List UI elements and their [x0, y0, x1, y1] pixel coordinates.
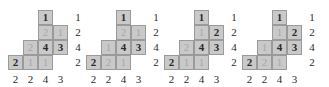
tableau-cell-r2-c2: 4: [116, 40, 131, 55]
column-label-3: 3: [209, 72, 224, 86]
tableau-cell-r1-c2: 2: [116, 25, 131, 40]
column-label-3: 3: [287, 72, 302, 86]
row-label-3: 2: [306, 55, 318, 70]
tableau-cell-r3-c1: 2: [101, 55, 116, 70]
column-label-0: 2: [242, 72, 257, 86]
tableau-cell-r2-c1: 1: [257, 40, 272, 55]
column-label-1: 2: [101, 72, 116, 86]
tableau-grid: 112143221: [242, 10, 302, 70]
diagram-2: 12114322112422243: [82, 4, 160, 84]
tableau-cell-r3-c1: 1: [23, 55, 38, 70]
tableau-cell-r0-c2: 1: [116, 10, 131, 25]
column-label-3: 3: [131, 72, 146, 86]
column-label-1: 2: [257, 72, 272, 86]
row-label-2: 4: [306, 40, 318, 55]
tableau-cell-r2-c3: 3: [287, 40, 302, 55]
tableau-cell-r2-c1: 2: [179, 40, 194, 55]
tableau-cell-r2-c1: 2: [23, 40, 38, 55]
tableau-cell-r0-c2: 1: [38, 10, 53, 25]
column-label-0: 2: [8, 72, 23, 86]
tableau-cell-r3-c2: 1: [272, 55, 287, 70]
tableau-cell-r3-c2: 1: [194, 55, 209, 70]
column-label-2: 4: [194, 72, 209, 86]
column-label-1: 2: [23, 72, 38, 86]
column-label-2: 4: [272, 72, 287, 86]
tableau-cell-r3-c0: 2: [86, 55, 101, 70]
tableau-cell-r1-c2: 1: [272, 25, 287, 40]
tableau-grid: 121243211: [8, 10, 68, 70]
tableau-cell-r3-c0: 2: [164, 55, 179, 70]
row-label-0: 1: [306, 10, 318, 25]
tableau-cell-r1-c2: 1: [194, 25, 209, 40]
tableau-cell-r3-c1: 2: [257, 55, 272, 70]
column-label-1: 2: [179, 72, 194, 86]
tableau-cell-r2-c2: 4: [38, 40, 53, 55]
tableau-grid: 121143221: [86, 10, 146, 70]
tableau-cell-r2-c1: 1: [101, 40, 116, 55]
column-label-2: 4: [116, 72, 131, 86]
tableau-grid: 112243211: [164, 10, 224, 70]
diagram-row: 1212432111242224312114322112422243112243…: [0, 0, 329, 84]
tableau-cell-r2-c2: 4: [272, 40, 287, 55]
tableau-cell-r3-c0: 2: [242, 55, 257, 70]
column-label-2: 4: [38, 72, 53, 86]
tableau-cell-r3-c0: 2: [8, 55, 23, 70]
tableau-cell-r3-c2: 1: [116, 55, 131, 70]
tableau-cell-r1-c3: 1: [131, 25, 146, 40]
tableau-cell-r2-c3: 3: [209, 40, 224, 55]
column-label-0: 2: [86, 72, 101, 86]
tableau-cell-r2-c2: 4: [194, 40, 209, 55]
tableau-cell-r1-c3: 2: [287, 25, 302, 40]
tableau-cell-r2-c3: 3: [131, 40, 146, 55]
tableau-cell-r3-c1: 1: [179, 55, 194, 70]
tableau-cell-r1-c3: 2: [209, 25, 224, 40]
diagram-3: 11224321112422243: [160, 4, 238, 84]
tableau-cell-r3-c2: 1: [38, 55, 53, 70]
tableau-cell-r0-c2: 1: [272, 10, 287, 25]
row-label-1: 2: [306, 25, 318, 40]
column-label-3: 3: [53, 72, 68, 86]
tableau-cell-r2-c3: 3: [53, 40, 68, 55]
diagram-1: 12124321112422243: [4, 4, 82, 84]
diagram-4: 11214322112422243: [238, 4, 316, 84]
tableau-cell-r1-c2: 2: [38, 25, 53, 40]
column-label-0: 2: [164, 72, 179, 86]
tableau-cell-r1-c3: 1: [53, 25, 68, 40]
tableau-cell-r0-c2: 1: [194, 10, 209, 25]
